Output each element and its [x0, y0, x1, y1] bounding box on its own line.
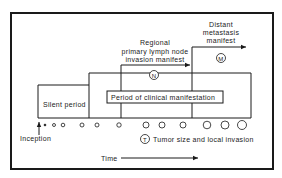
distant-label-2: metastasis	[203, 29, 240, 36]
distant-label-3: manifest	[207, 37, 236, 44]
regional-label-3: invasion manifest	[125, 56, 184, 63]
silent-period-label: Silent period	[43, 101, 86, 109]
t-marker-letter: T	[143, 137, 147, 143]
m-marker-letter: M	[218, 56, 223, 62]
tnm-staging-diagram: Silent period Period of clinical manifes…	[0, 0, 282, 178]
time-label: Time	[101, 155, 118, 162]
clinical-period-label: Period of clinical manifestation	[111, 94, 215, 101]
tumor-growth-circles	[44, 121, 246, 130]
inception-label: Inception	[20, 135, 51, 143]
n-marker: N	[150, 71, 159, 80]
tumor-caption: Tumor size and local invasion	[153, 136, 254, 143]
regional-label-1: Regional	[140, 39, 170, 47]
t-marker: T	[141, 135, 150, 144]
n-marker-letter: N	[152, 73, 157, 79]
m-marker: M	[217, 54, 226, 63]
regional-label-2: primary lymph node	[122, 48, 189, 56]
distant-label-1: Distant	[209, 21, 233, 28]
